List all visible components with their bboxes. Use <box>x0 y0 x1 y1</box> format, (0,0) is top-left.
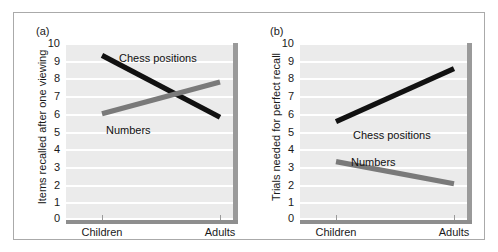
panel-b-ytick-8: 8 <box>288 73 294 84</box>
panel-a-ytick-0: 0 <box>54 213 60 224</box>
panel-b-ytick-3: 3 <box>288 161 294 172</box>
panel-b-label: (b) <box>270 25 283 37</box>
panel-a-label: (a) <box>36 25 49 37</box>
panel-a-ytick-8: 8 <box>54 73 60 84</box>
panel-b-xtick-children: Children <box>316 226 357 238</box>
panel-a-xtickmark-adults <box>220 215 221 220</box>
panel-a-y-axis-title: Items recalled after one viewing <box>36 37 48 217</box>
panel-b-ytick-1: 1 <box>288 197 294 208</box>
panel-a-xtick-adults: Adults <box>205 226 236 238</box>
panel-a-label-chess-positions: Chess positions <box>119 52 197 64</box>
chart-panel-b: (b) Trials needed for perfect recall 10 … <box>248 13 484 239</box>
figure-container: (a) Items recalled after one viewing 10 … <box>13 12 485 240</box>
panel-b-ytick-6: 6 <box>288 108 294 119</box>
panel-b-line-chess <box>336 69 454 122</box>
panel-b-x-axis <box>300 220 472 224</box>
panel-a-ytick-10: 10 <box>48 38 60 49</box>
panel-a-label-numbers: Numbers <box>106 124 151 136</box>
panel-a-ytick-7: 7 <box>54 91 60 102</box>
panel-b-ytick-9: 9 <box>288 55 294 66</box>
panel-a-ytick-3: 3 <box>54 161 60 172</box>
panel-b-ytick-5: 5 <box>288 126 294 137</box>
panel-b-ytick-4: 4 <box>288 144 294 155</box>
panel-b-xtickmark-adults <box>454 215 455 220</box>
panel-b-ytick-0: 0 <box>288 213 294 224</box>
panel-a-ytick-6: 6 <box>54 108 60 119</box>
panel-b-xtickmark-children <box>336 215 337 220</box>
panel-a-x-axis <box>66 220 238 224</box>
panel-a-ytick-2: 2 <box>54 179 60 190</box>
panel-b-ytick-7: 7 <box>288 91 294 102</box>
chart-panel-a: (a) Items recalled after one viewing 10 … <box>14 13 250 239</box>
panel-b-label-chess-positions: Chess positions <box>353 129 431 141</box>
panel-a-xtickmark-children <box>102 215 103 220</box>
panel-a-ytick-9: 9 <box>54 55 60 66</box>
panel-b-label-numbers: Numbers <box>351 156 396 168</box>
panel-a-xtick-children: Children <box>82 226 123 238</box>
panel-b-xtick-adults: Adults <box>439 226 470 238</box>
panel-a-plot-shadow <box>233 43 238 220</box>
panel-a-ytick-4: 4 <box>54 144 60 155</box>
panel-b-y-axis-title: Trials needed for perfect recall <box>270 37 282 217</box>
panel-b-ytick-10: 10 <box>282 38 294 49</box>
panel-a-ytick-1: 1 <box>54 197 60 208</box>
panel-a-ytick-5: 5 <box>54 126 60 137</box>
panel-b-plot-shadow <box>467 43 472 220</box>
panel-b-ytick-2: 2 <box>288 179 294 190</box>
